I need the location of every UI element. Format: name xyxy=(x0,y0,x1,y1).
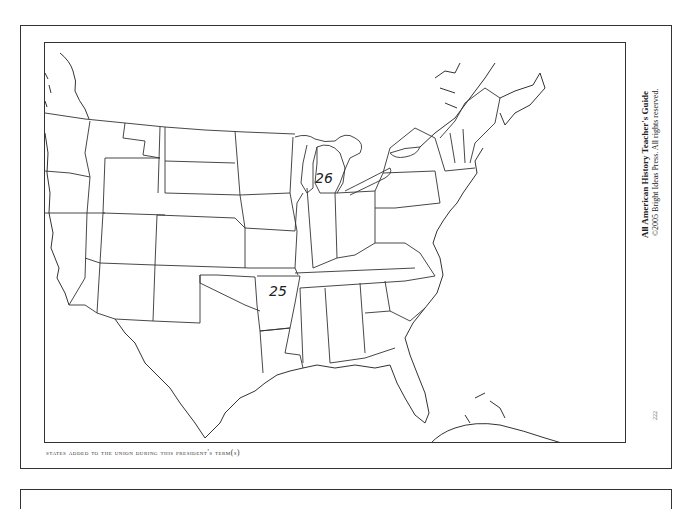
map-caption: States added to the Union during this pr… xyxy=(46,448,240,457)
credit-title: All American History Teacher's Guide xyxy=(640,91,650,238)
state-label-michigan: 26 xyxy=(315,170,333,186)
credit-copyright: ©2005 Bright Ideas Press. All rights res… xyxy=(651,89,660,236)
page-number: 222 xyxy=(652,411,658,420)
next-page-frame xyxy=(20,489,672,509)
state-label-arkansas: 25 xyxy=(269,283,287,299)
us-map-svg: 26 25 xyxy=(45,43,626,443)
credit-block: All American History Teacher's Guide ©20… xyxy=(640,40,664,240)
us-map: 26 25 xyxy=(44,42,626,443)
